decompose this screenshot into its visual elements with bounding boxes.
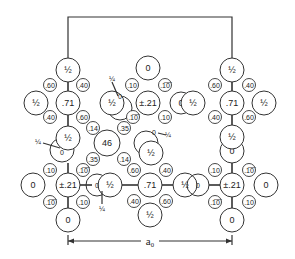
- atom-height-label: ½: [147, 148, 155, 158]
- unit-cell-top-outline: [68, 17, 232, 60]
- atom-height-label: ½: [189, 98, 197, 108]
- large-atom: 0: [56, 208, 80, 232]
- atom-height-label: ½: [64, 65, 72, 75]
- atom-height-label: ±.21: [59, 180, 76, 190]
- small-atom-label: .40: [129, 198, 139, 205]
- small-atom: .60: [243, 111, 256, 124]
- atom-height-label: ½: [146, 210, 154, 220]
- small-atom: .60: [209, 79, 222, 92]
- large-atom: ½: [56, 126, 80, 150]
- atom-height-label: ±.21: [139, 98, 156, 108]
- small-atom-label: .10: [210, 167, 220, 174]
- atom-height-label: .71: [144, 180, 157, 190]
- atom-height-label: 46: [102, 138, 112, 148]
- small-atom-label: .60: [210, 82, 220, 89]
- small-atom: .10: [243, 196, 256, 209]
- height-label: ¼: [99, 205, 105, 212]
- small-atom-label: .40: [78, 82, 88, 89]
- height-label: 0: [152, 129, 156, 136]
- large-atom: .71: [56, 91, 80, 115]
- large-atom: ±.21: [220, 173, 244, 197]
- small-atom: .10: [44, 164, 57, 177]
- small-atom: .60: [44, 79, 57, 92]
- large-atom: 0: [21, 173, 45, 197]
- small-atom: .10: [209, 164, 222, 177]
- large-atom: ½: [24, 91, 48, 115]
- large-atom: 0: [136, 56, 160, 80]
- small-atom: .40: [160, 164, 173, 177]
- large-atom: 0: [220, 208, 244, 232]
- small-atom: .60: [128, 164, 141, 177]
- small-atom: .35: [87, 153, 100, 166]
- atom-height-label: 0: [229, 215, 234, 225]
- small-atom: .40: [128, 195, 141, 208]
- small-atom-label: .10: [45, 167, 55, 174]
- atom-height-label: ½: [228, 132, 236, 142]
- small-atom-label: .60: [129, 167, 139, 174]
- small-atom-label: .14: [119, 156, 129, 163]
- small-atom-label: .40: [45, 114, 55, 121]
- small-atom: .1̅0̅: [44, 196, 58, 209]
- height-label: ¼: [109, 75, 115, 82]
- large-atom: ½: [173, 173, 197, 197]
- large-atom: .71: [220, 91, 244, 115]
- small-atom-label: .60: [161, 198, 171, 205]
- small-atom-label: .35: [88, 156, 98, 163]
- crystal-structure-diagram: ½½.71½0±.210½0±.210½46½½.71½½½.71½0½±.21…: [0, 0, 295, 259]
- small-atom-label: .10: [244, 199, 254, 206]
- atom-height-label: ½: [260, 98, 268, 108]
- large-atom: ½: [181, 91, 205, 115]
- small-atom: .1̅0̅: [159, 79, 173, 92]
- atom-height-label: 0: [263, 180, 268, 190]
- small-atom-label: .40: [210, 114, 220, 121]
- arrowhead-left-icon: [68, 239, 74, 244]
- small-atom-label: .14: [88, 125, 98, 132]
- cell-edge-arrow: a₀: [68, 235, 232, 247]
- small-atom: .40: [243, 79, 256, 92]
- large-atom: ½: [139, 141, 163, 165]
- large-atom: ±.21: [56, 173, 80, 197]
- small-atom-label: .60: [244, 114, 254, 121]
- small-atom: .1̅0̅: [127, 111, 141, 124]
- unit-cell-outline: [68, 17, 232, 60]
- height-label: ¼: [35, 138, 41, 145]
- large-atom: 46: [94, 130, 120, 156]
- small-atom: .40: [44, 111, 57, 124]
- large-atom: 0: [254, 173, 278, 197]
- large-atom: ±.21: [136, 91, 160, 115]
- atom-height-label: ±.21: [223, 180, 240, 190]
- atom-height-label: 0: [65, 215, 70, 225]
- diagram-canvas: ½½.71½0±.210½0±.210½46½½.71½½½.71½0½±.21…: [0, 0, 295, 259]
- height-label: ¼: [165, 131, 171, 138]
- atom-height-label: ½: [32, 98, 40, 108]
- atom-height-label: 0: [145, 63, 150, 73]
- small-atom-label: .35: [119, 125, 129, 132]
- small-atom-label: .10: [78, 199, 88, 206]
- large-atom: ½: [220, 125, 244, 149]
- small-atom: .10: [159, 111, 172, 124]
- small-atom: .14: [87, 122, 100, 135]
- atom-height-label: ½: [108, 98, 116, 108]
- height-label: 0: [95, 182, 99, 189]
- small-atom-label: .10: [160, 114, 170, 121]
- small-atom-label: .60: [45, 82, 55, 89]
- large-atom: ½: [220, 58, 244, 82]
- large-atom: ½: [138, 203, 162, 227]
- small-atom: .1̅0̅: [243, 164, 257, 177]
- small-atom: .60: [77, 111, 90, 124]
- small-atom: .40: [77, 79, 90, 92]
- atom-height-label: ½: [64, 133, 72, 143]
- small-atom: .35: [118, 122, 131, 135]
- large-atom: .71: [138, 173, 162, 197]
- small-atom-label: .60: [78, 114, 88, 121]
- large-atoms: ½½.71½0±.210½0±.210½46½½.71½½½.71½0½±.21…: [21, 56, 278, 232]
- small-atom-label: .10: [127, 82, 137, 89]
- small-atom-label: .40: [244, 82, 254, 89]
- small-atom-label: .40: [161, 167, 171, 174]
- small-atom: .10: [77, 196, 90, 209]
- small-atom: .40: [209, 111, 222, 124]
- small-atom: .10: [126, 79, 139, 92]
- large-atom: ½: [252, 91, 276, 115]
- large-atom: ½: [56, 58, 80, 82]
- atom-height-label: 0: [30, 180, 35, 190]
